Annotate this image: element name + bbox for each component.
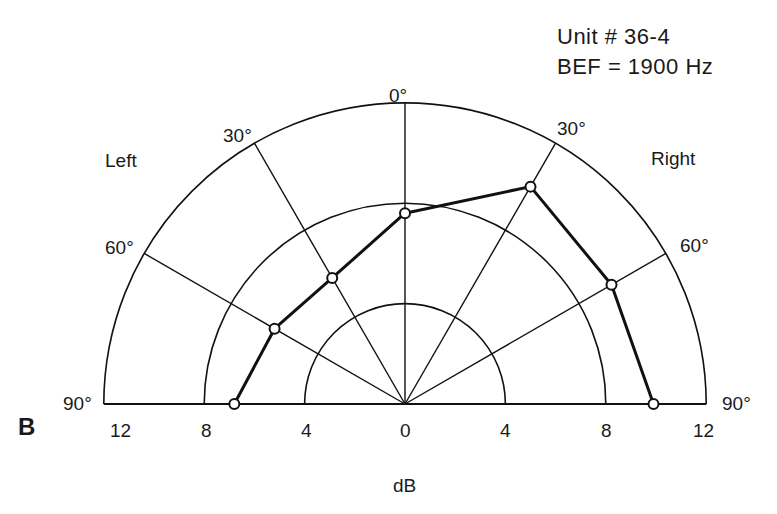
- angle-label-right-30: 30°: [557, 118, 586, 140]
- tick-label-left-8: 8: [201, 420, 212, 442]
- bef-label: BEF = 1900 Hz: [557, 54, 713, 80]
- data-point-2: [327, 273, 337, 283]
- right-side-label: Right: [651, 148, 695, 170]
- data-point-6: [648, 399, 658, 409]
- angle-label-right-90: 90°: [722, 393, 751, 415]
- data-point-1: [270, 324, 280, 334]
- tick-label-0: 0: [400, 420, 411, 442]
- data-point-4: [526, 182, 536, 192]
- unit-label: Unit # 36-4: [557, 24, 670, 50]
- data-point-0: [229, 399, 239, 409]
- data-line: [234, 187, 653, 404]
- angle-label-0: 0°: [389, 85, 407, 107]
- angle-label-left-60: 60°: [105, 237, 134, 259]
- angle-label-left-90: 90°: [63, 393, 92, 415]
- data-point-3: [400, 208, 410, 218]
- tick-label-right-8: 8: [601, 420, 612, 442]
- tick-label-left-12: 12: [110, 420, 131, 442]
- angle-label-left-30: 30°: [223, 125, 252, 147]
- data-point-5: [607, 280, 617, 290]
- panel-label: B: [18, 413, 35, 441]
- left-side-label: Left: [105, 150, 137, 172]
- tick-label-right-12: 12: [693, 420, 714, 442]
- tick-label-left-4: 4: [301, 420, 312, 442]
- x-axis-label: dB: [393, 475, 416, 497]
- tick-label-right-4: 4: [500, 420, 511, 442]
- angle-label-right-60: 60°: [680, 235, 709, 257]
